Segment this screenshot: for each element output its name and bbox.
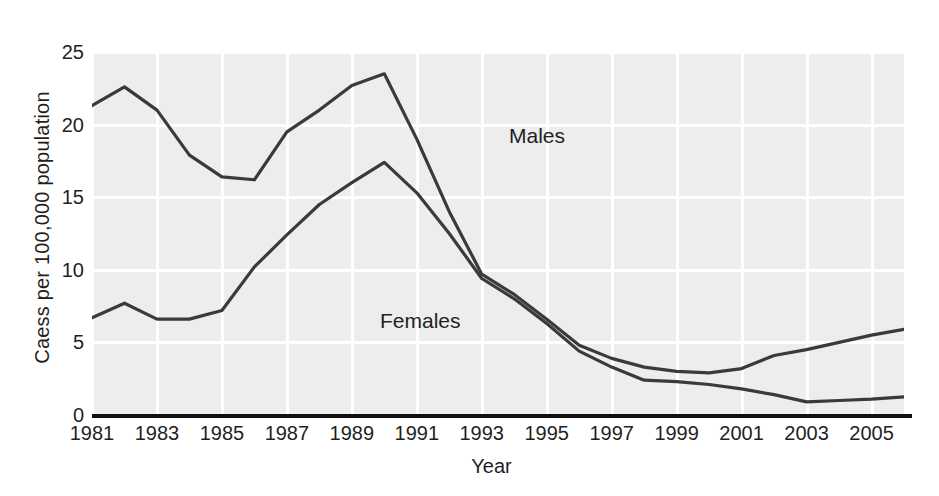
x-tick-label: 1999	[647, 421, 707, 445]
x-tick-label: 1991	[387, 421, 447, 445]
y-tick-label: 10	[40, 260, 84, 280]
x-tick-label: 1997	[582, 421, 642, 445]
x-tick-label: 1989	[322, 421, 382, 445]
x-tick-label: 2005	[842, 421, 902, 445]
series-annotation-females: Females	[380, 310, 461, 331]
y-tick-label: 20	[40, 115, 84, 135]
series-line-males	[92, 74, 904, 373]
y-tick-label: 15	[40, 187, 84, 207]
x-tick-label: 1981	[62, 421, 122, 445]
x-tick-label: 1983	[127, 421, 187, 445]
x-tick-label: 1985	[192, 421, 252, 445]
x-tick-label: 2003	[777, 421, 837, 445]
series-annotation-males: Males	[509, 125, 565, 146]
line-chart: Caess per 100,000 population 0510152025 …	[0, 0, 939, 496]
x-tick-label: 1995	[517, 421, 577, 445]
plot-area: Males Females	[92, 52, 904, 415]
x-tick-label: 1993	[452, 421, 512, 445]
y-tick-label: 5	[40, 332, 84, 352]
x-axis-tick-labels: 1981198319851987198919911993199519971999…	[0, 421, 939, 449]
x-tick-label: 2001	[712, 421, 772, 445]
x-tick-label: 1987	[257, 421, 317, 445]
x-axis-title-text: Year	[471, 455, 511, 478]
series-line-females	[92, 162, 904, 402]
y-tick-label: 25	[40, 42, 84, 62]
x-axis-line	[92, 414, 912, 418]
series-lines	[92, 52, 904, 415]
x-axis-title: Year	[0, 455, 939, 478]
